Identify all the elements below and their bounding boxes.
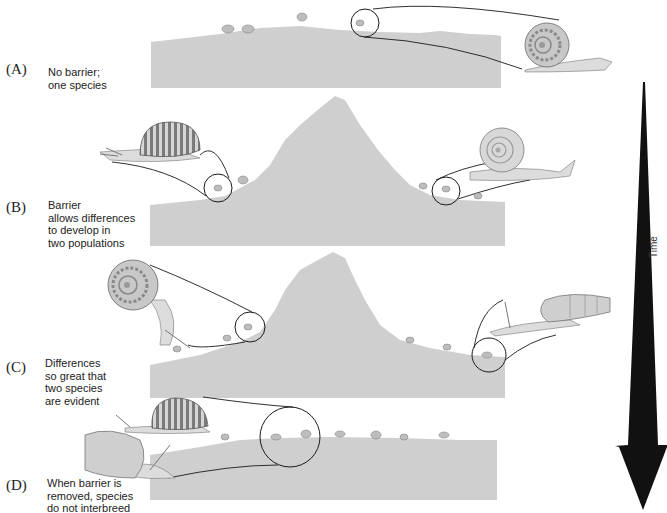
panel-a-letter: (A) — [6, 61, 27, 78]
panel-a-ground — [151, 26, 501, 88]
zoom-line-b-right-bottom — [458, 180, 530, 199]
panel-b-artwork — [100, 96, 575, 246]
panel-a-description: No barrier; one species — [48, 66, 107, 91]
panel-c-artwork — [108, 252, 610, 398]
panel-c-description: Differences so great that two species ar… — [45, 357, 106, 407]
snail-d-conical-icon — [85, 431, 175, 479]
time-axis-label: Time — [648, 236, 659, 258]
zoom-line-d-top — [203, 397, 293, 407]
snail-b-right-icon — [470, 128, 575, 181]
snail-d-striped-icon — [116, 398, 210, 434]
panel-c-letter: (C) — [6, 359, 26, 376]
panel-c-ground-with-mountain — [150, 252, 505, 398]
panel-b-ground-with-mountain — [150, 96, 505, 246]
snail-c-left-icon — [108, 260, 190, 348]
zoom-line-c-right-bottom — [505, 335, 556, 360]
panel-a-artwork — [151, 6, 612, 88]
panel-d-ground — [150, 437, 497, 500]
zoom-line-a-top — [373, 6, 559, 20]
zoom-line-b-left-top — [200, 151, 229, 178]
snail-a-icon — [525, 23, 612, 72]
snail-b-left-icon — [100, 122, 200, 162]
panel-b-letter: (B) — [6, 199, 26, 216]
panel-b-description: Barrier allows differences to develop in… — [48, 199, 135, 249]
panel-d-description: When barrier is removed, species do not … — [47, 477, 133, 513]
snail-c-right-icon — [490, 294, 610, 336]
panel-d-letter: (D) — [6, 477, 27, 494]
time-arrow-icon — [615, 82, 667, 510]
panel-d-artwork — [85, 397, 497, 500]
zoom-line-b-left-bottom — [112, 162, 206, 196]
speciation-diagram: (A) No barrier; one species (B) Barrier … — [0, 0, 667, 513]
